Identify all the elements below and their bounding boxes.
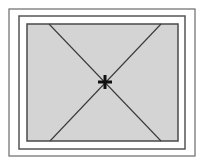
diagram-canvas bbox=[0, 0, 208, 166]
window-frame-diagram bbox=[0, 0, 208, 166]
